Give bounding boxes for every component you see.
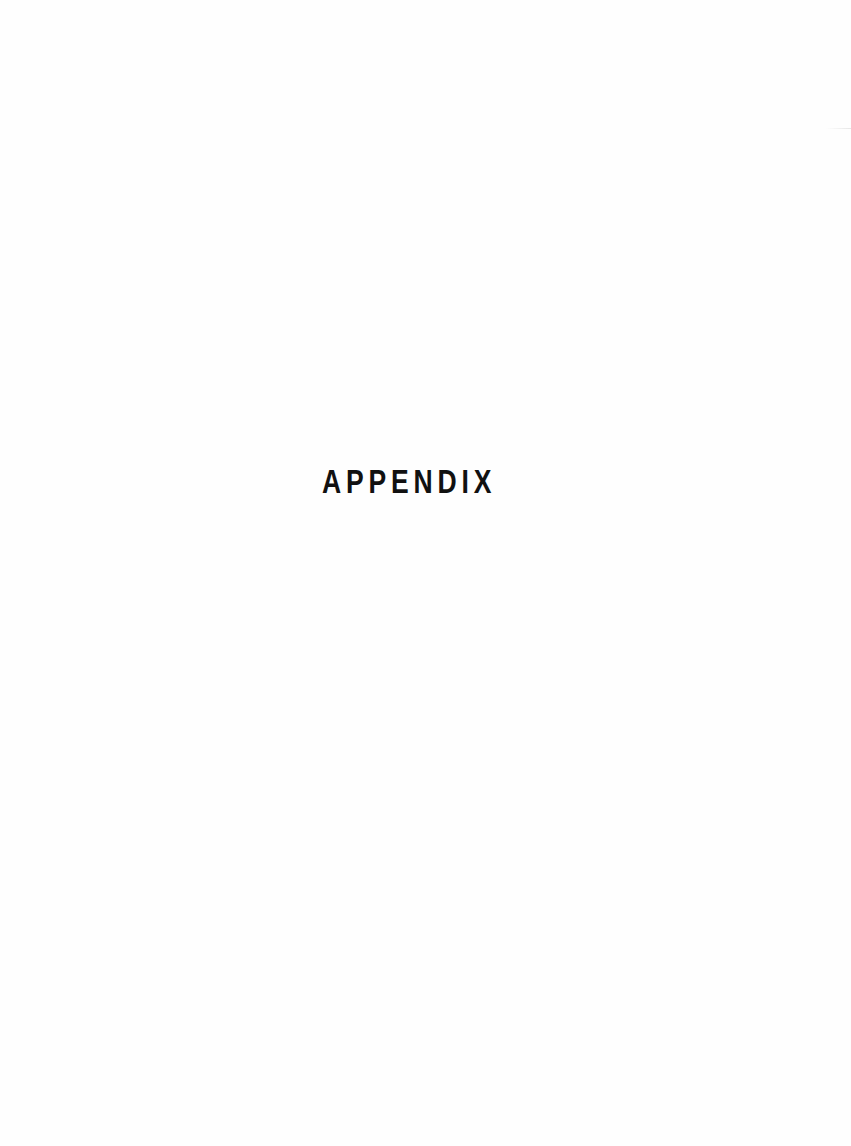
- document-page: APPENDIX: [0, 0, 851, 1146]
- scan-artifact-line: [826, 128, 851, 129]
- section-title: APPENDIX: [322, 462, 496, 500]
